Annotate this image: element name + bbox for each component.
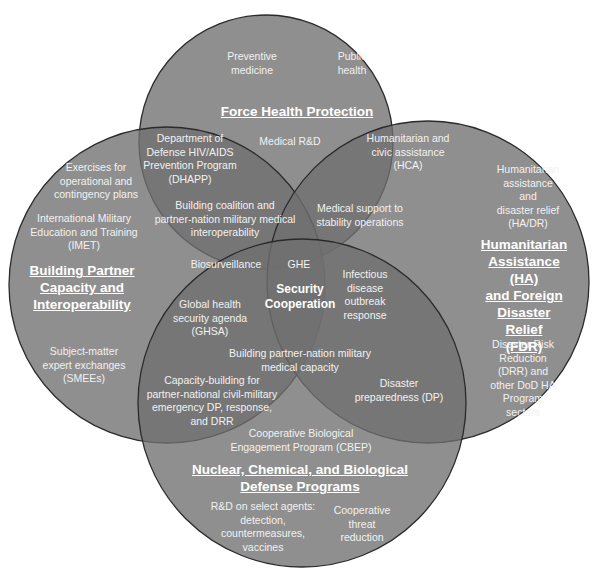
title-force-health-protection: Force Health Protection (221, 103, 373, 120)
label-infectious-disease: Infectious disease outbreak response (343, 268, 388, 322)
label-cooperative-threat-reduction: Cooperative threat reduction (334, 504, 391, 545)
label-ghsa: Global health security agenda (GHSA) (173, 298, 247, 339)
label-ghe: GHE (288, 258, 311, 272)
label-capacity-building: Capacity-building for partner-national c… (147, 374, 278, 428)
label-preventive-medicine: Preventive medicine (227, 50, 277, 77)
title-security-cooperation: Security Cooperation (265, 282, 336, 312)
label-coalition: Building coalition and partner-nation mi… (155, 199, 296, 240)
label-imet: International Military Education and Tra… (30, 212, 137, 253)
label-building-capacity: Building partner-nation military medical… (229, 347, 371, 374)
label-public-health: Public health (338, 50, 367, 77)
label-medical-rd: Medical R&D (259, 135, 320, 149)
label-ha-dr: Humanitarian assistance and disaster rel… (496, 163, 561, 231)
label-dhapp: Department of Defense HIV/AIDS Preventio… (143, 132, 236, 186)
label-biosurveillance: Biosurveillance (191, 258, 262, 272)
label-smees: Subject-matter expert exchanges (SMEEs) (43, 345, 126, 386)
title-nuclear-chemical-biological: Nuclear, Chemical, and Biological Defens… (192, 461, 408, 495)
label-disaster-preparedness: Disaster preparedness (DP) (355, 377, 444, 404)
label-hca: Humanitarian and civic assistance (HCA) (367, 132, 450, 173)
label-rd-select-agents: R&D on select agents: detection, counter… (211, 500, 315, 554)
label-cbep: Cooperative Biological Engagement Progra… (230, 427, 371, 454)
label-medical-support-stability: Medical support to stability operations (317, 202, 404, 229)
title-building-partner-capacity: Building Partner Capacity and Interopera… (29, 262, 134, 313)
label-exercises: Exercises for operational and contingenc… (54, 161, 138, 202)
label-drr: Disaster Risk Reduction (DRR) and other … (488, 338, 558, 419)
